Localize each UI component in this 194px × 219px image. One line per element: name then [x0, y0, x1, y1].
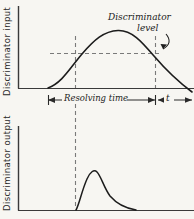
lower-panel	[18, 126, 194, 211]
resolving-span-right-arrow	[148, 97, 155, 103]
upper-y-axis-label: Discriminator input	[2, 7, 12, 96]
discriminator-level-annotation-line1: Discriminator	[108, 12, 171, 22]
t-span-right-arrow	[185, 97, 192, 103]
discriminator-level-annotation-line2: level	[137, 23, 159, 33]
figure-canvas	[0, 0, 194, 219]
input-pulse-curve	[48, 30, 192, 92]
discriminator-resolving-time-figure: Discriminator input Discriminator output…	[0, 0, 194, 219]
lower-y-axis-label: Discriminator output	[2, 115, 12, 211]
t-span-left-arrow	[158, 97, 164, 103]
resolving-time-label: Resolving time	[64, 93, 128, 103]
output-pulse-curve	[76, 171, 136, 210]
t-axis-label: t	[166, 93, 170, 103]
